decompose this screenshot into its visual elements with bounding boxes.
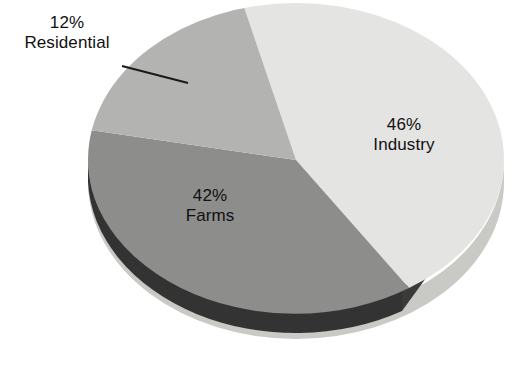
pie-label-residential-name: Residential [2, 33, 132, 53]
pie-label-farms-name: Farms [150, 206, 270, 226]
pie-label-farms-percent: 42% [150, 186, 270, 206]
pie-top-face [87, 0, 505, 314]
pie-label-residential: 12% Residential [2, 13, 132, 53]
pie-label-residential-percent: 12% [2, 13, 132, 33]
pie-label-industry-percent: 46% [344, 115, 464, 135]
pie-chart: 46% Industry 42% Farms 12% Residential [0, 0, 524, 365]
pie-label-industry-name: Industry [344, 135, 464, 155]
pie-label-industry: 46% Industry [344, 115, 464, 155]
pie-label-farms: 42% Farms [150, 186, 270, 226]
pie-chart-graphic [0, 0, 524, 365]
